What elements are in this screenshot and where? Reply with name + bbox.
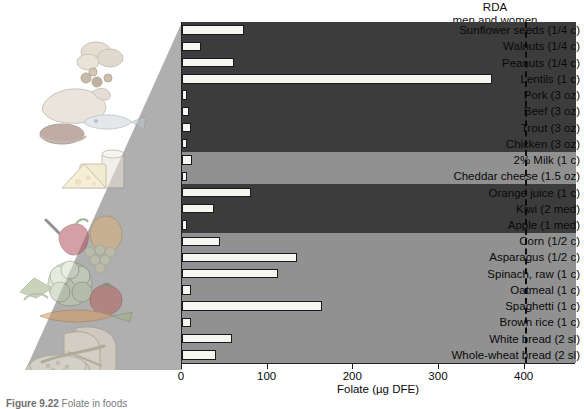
bar <box>182 220 187 229</box>
category-label: Pork (3 oz) <box>408 89 584 101</box>
meat-fish-illustration <box>30 76 150 148</box>
bar <box>182 58 234 67</box>
dairy-illustration <box>58 146 140 204</box>
bar <box>182 334 232 343</box>
bar <box>182 301 322 310</box>
x-axis-tick-label: 200 <box>343 370 362 382</box>
category-label: Beef (3 oz) <box>408 105 584 117</box>
x-axis-tick-label: 100 <box>257 370 276 382</box>
bar <box>182 139 187 148</box>
category-label: Cheddar cheese (1.5 oz) <box>408 170 584 182</box>
x-axis-tick <box>181 364 182 369</box>
x-axis-title: Folate (µg DFE) <box>181 383 575 395</box>
category-label: Orange juice (1 c) <box>408 187 584 199</box>
bar <box>182 350 216 359</box>
category-label: Lentils (1 c) <box>408 73 584 85</box>
category-label: Asparagus (1/2 c) <box>408 251 584 263</box>
x-axis-tick <box>438 364 439 369</box>
bar <box>182 25 244 34</box>
category-label: Kiwi (2 med) <box>408 203 584 215</box>
figure-caption: Figure 9.22 Folate in foods <box>6 398 566 409</box>
category-label: Sunflower seeds (1/4 c) <box>408 24 584 36</box>
bar <box>182 269 278 278</box>
category-label: Corn (1/2 c) <box>408 235 584 247</box>
grains-illustration <box>20 322 150 370</box>
bar <box>182 90 187 99</box>
x-axis-tick-label: 400 <box>514 370 533 382</box>
bar <box>182 237 220 246</box>
figure-caption-text: Folate in foods <box>62 398 128 409</box>
category-label: Whole-wheat bread (2 sl) <box>408 349 584 361</box>
category-label: Spinach, raw (1 c) <box>408 268 584 280</box>
bar <box>182 285 191 294</box>
category-label: Peanuts (1/4 c) <box>408 57 584 69</box>
category-label: Apple (1 med) <box>408 219 584 231</box>
vegetables-illustration <box>12 258 142 332</box>
x-axis-tick <box>352 364 353 369</box>
category-label: Walnuts (1/4 c) <box>408 40 584 52</box>
category-label: Brown rice (1 c) <box>408 316 584 328</box>
category-label: 2% Milk (1 c) <box>408 154 584 166</box>
figure-caption-number: Figure 9.22 <box>6 398 59 409</box>
x-axis-tick <box>524 364 525 369</box>
category-label: Oatmeal (1 c) <box>408 284 584 296</box>
bar <box>182 42 201 51</box>
bar <box>182 253 297 262</box>
x-axis-tick-label: 300 <box>428 370 447 382</box>
bar <box>182 172 187 181</box>
bar <box>182 188 251 197</box>
x-axis-tick <box>267 364 268 369</box>
category-label: Spaghetti (1 c) <box>408 300 584 312</box>
x-axis: 0100200300400 <box>181 363 575 364</box>
category-label: Trout (3 oz) <box>408 122 584 134</box>
category-label: White bread (2 sl) <box>408 333 584 345</box>
bar <box>182 318 191 327</box>
x-axis-tick-label: 0 <box>178 370 184 382</box>
bar <box>182 123 191 132</box>
bar <box>182 204 214 213</box>
category-label: Chicken (3 oz) <box>408 138 584 150</box>
food-illustration-wedge <box>0 22 182 370</box>
bar <box>182 107 189 116</box>
rda-label-line1: RDA <box>420 1 570 14</box>
bar <box>182 155 192 164</box>
